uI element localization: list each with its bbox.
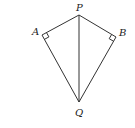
segment-pb [79, 15, 116, 37]
label-p: P [75, 2, 83, 13]
segment-aq [42, 35, 79, 102]
segment-bq [79, 37, 116, 102]
label-b: B [118, 27, 126, 38]
kite-diagram: P A B Q [0, 0, 135, 128]
segment-pa [42, 15, 79, 35]
label-a: A [31, 26, 39, 37]
label-q: Q [75, 107, 83, 118]
